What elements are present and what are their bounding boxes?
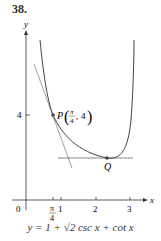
origin-label: 0 bbox=[16, 204, 21, 214]
point-q-label: Q bbox=[104, 161, 112, 172]
plot: y x 0 π 4 1 2 3 4 P ( π 4 , 4 ) Q bbox=[0, 0, 161, 241]
y-tick-4: 4 bbox=[17, 110, 22, 120]
curve bbox=[40, 40, 134, 158]
function-caption: y = 1 + √2 csc x + cot x bbox=[0, 221, 161, 233]
x-axis-arrow-icon bbox=[143, 198, 148, 202]
svg-text:,: , bbox=[76, 111, 78, 121]
x-axis-label: x bbox=[149, 195, 154, 205]
tick-3: 3 bbox=[127, 204, 132, 214]
tick-pi: π bbox=[50, 204, 54, 213]
y-axis-label: y bbox=[23, 19, 28, 29]
point-p-label: P bbox=[56, 110, 63, 121]
svg-text:(: ( bbox=[64, 108, 69, 126]
svg-text:): ) bbox=[87, 108, 92, 126]
svg-text:4: 4 bbox=[70, 117, 74, 125]
tick-1: 1 bbox=[58, 204, 63, 214]
y-axis-arrow-icon bbox=[24, 30, 28, 35]
point-p bbox=[51, 113, 55, 117]
svg-text:π: π bbox=[70, 108, 74, 116]
tick-2: 2 bbox=[93, 204, 98, 214]
svg-text:4: 4 bbox=[81, 111, 86, 121]
point-q bbox=[105, 156, 109, 160]
